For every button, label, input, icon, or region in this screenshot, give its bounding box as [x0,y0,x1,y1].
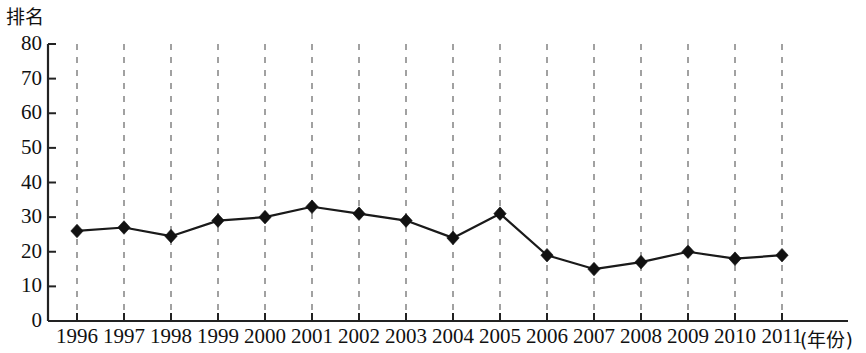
x-axis-tick-label: 1999 [197,326,239,347]
data-point-marker [729,252,741,266]
x-axis-tick-label: 2004 [432,326,474,347]
x-axis-title: (年份) [800,325,853,352]
x-axis-tick-label: 2007 [573,326,615,347]
x-axis-tick-label: 2001 [291,326,333,347]
data-point-marker [212,214,224,228]
x-axis-tick-label: 1998 [150,326,192,347]
x-axis-tick-label: 2005 [479,326,521,347]
axes [48,44,848,321]
data-point-marker [353,207,365,221]
x-axis-tick-label: 2000 [244,326,286,347]
x-axis-tick-label: 2011 [761,326,802,347]
data-point-marker [306,200,318,214]
x-axis-tick-label: 2003 [385,326,427,347]
data-point-marker [400,214,412,228]
vertical-gridlines [77,44,782,321]
x-axis-tick-label: 2008 [620,326,662,347]
data-point-marker [259,210,271,224]
x-axis-tick-label: 1996 [56,326,98,347]
data-point-marker [447,231,459,245]
y-axis-ticks [48,44,56,321]
x-axis-tick-label: 2006 [526,326,568,347]
data-point-marker [588,262,600,276]
x-axis-ticks [77,313,782,321]
plot-area [0,0,866,353]
data-point-marker [165,229,177,243]
data-point-marker [682,245,694,259]
data-point-marker [635,255,647,269]
data-point-marker [118,221,130,235]
ranking-line-chart: 排名 01020304050607080 1996199719981999200… [0,0,866,353]
x-axis-tick-label: 2002 [338,326,380,347]
x-axis-tick-label: 2010 [714,326,756,347]
data-point-marker [71,224,83,238]
data-point-marker [776,248,788,262]
series-line [77,207,782,269]
x-axis-tick-label: 1997 [103,326,145,347]
x-axis-tick-label: 2009 [667,326,709,347]
data-point-markers [71,200,788,276]
